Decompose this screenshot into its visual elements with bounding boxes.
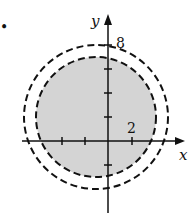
y-axis-arrow-icon: [104, 14, 112, 25]
x-tick-label-2: 2: [127, 120, 136, 136]
y-axis-label: y: [90, 12, 100, 30]
bullet-mark: •: [0, 19, 8, 35]
y-tick-label-8: 8: [116, 35, 125, 51]
x-axis-arrow-icon: [175, 137, 185, 145]
region-plot: • y x 8 2: [0, 0, 189, 213]
x-axis-label: x: [179, 146, 188, 164]
